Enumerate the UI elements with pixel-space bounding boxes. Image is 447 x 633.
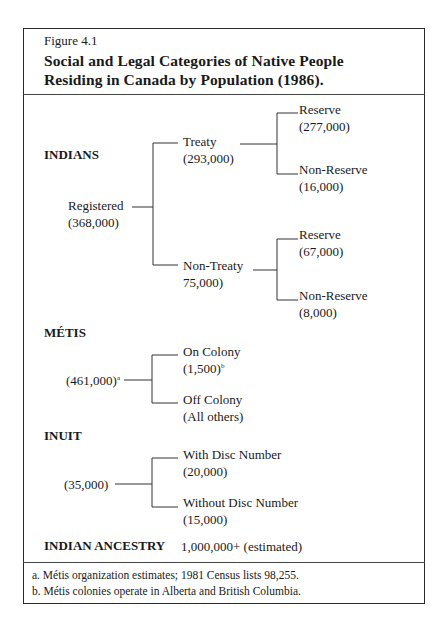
footnote-ref-a: a <box>117 374 120 382</box>
node-non-treaty-label: Non-Treaty <box>183 257 243 274</box>
node-on-colony-value: (1,500) <box>183 361 221 376</box>
node-on-colony-label: On Colony <box>183 343 240 360</box>
node-without-disc-value: (15,000) <box>183 511 298 528</box>
footnote-a: a. Métis organization estimates; 1981 Ce… <box>32 568 299 583</box>
node-treaty-non-reserve: Non-Reserve (16,000) <box>299 161 368 195</box>
node-registered: Registered (368,000) <box>68 197 124 231</box>
node-with-disc-label: With Disc Number <box>183 446 281 463</box>
node-non-treaty-non-reserve: Non-Reserve (8,000) <box>299 287 368 321</box>
node-off-colony-label: Off Colony <box>183 391 243 408</box>
node-metis-total: (461,000)a <box>66 372 120 389</box>
node-off-colony: Off Colony (All others) <box>183 391 243 425</box>
node-treaty-value: (293,000) <box>183 150 234 167</box>
node-registered-value: (368,000) <box>68 214 124 231</box>
node-non-treaty-reserve-label: Reserve <box>299 226 343 243</box>
node-metis-total-value: (461,000) <box>66 373 117 388</box>
node-registered-label: Registered <box>68 197 124 214</box>
indian-ancestry-heading: INDIAN ANCESTRY <box>44 538 165 554</box>
node-inuit-total: (35,000) <box>64 476 108 493</box>
node-treaty-non-reserve-value: (16,000) <box>299 178 368 195</box>
node-non-treaty-value: 75,000) <box>183 274 243 291</box>
node-treaty-reserve-value: (277,000) <box>299 118 350 135</box>
node-with-disc-value: (20,000) <box>183 463 281 480</box>
indian-ancestry-value: 1,000,000+ (estimated) <box>181 538 302 555</box>
node-without-disc-label: Without Disc Number <box>183 494 298 511</box>
metis-heading: MÉTIS <box>44 325 86 341</box>
node-treaty-reserve: Reserve (277,000) <box>299 101 350 135</box>
node-non-treaty-non-reserve-value: (8,000) <box>299 304 368 321</box>
footnote-b: b. Métis colonies operate in Alberta and… <box>32 584 301 599</box>
node-treaty-label: Treaty <box>183 133 234 150</box>
inuit-heading: INUIT <box>44 428 82 444</box>
node-on-colony: On Colony (1,500)b <box>183 343 240 377</box>
node-treaty-non-reserve-label: Non-Reserve <box>299 161 368 178</box>
node-off-colony-value: (All others) <box>183 408 243 425</box>
node-non-treaty: Non-Treaty 75,000) <box>183 257 243 291</box>
footnote-ref-b: b <box>221 362 225 370</box>
node-without-disc: Without Disc Number (15,000) <box>183 494 298 528</box>
node-non-treaty-non-reserve-label: Non-Reserve <box>299 287 368 304</box>
node-treaty: Treaty (293,000) <box>183 133 234 167</box>
node-treaty-reserve-label: Reserve <box>299 101 350 118</box>
node-non-treaty-reserve-value: (67,000) <box>299 243 343 260</box>
node-on-colony-value-row: (1,500)b <box>183 360 240 377</box>
indians-heading: INDIANS <box>44 147 99 163</box>
node-non-treaty-reserve: Reserve (67,000) <box>299 226 343 260</box>
node-with-disc: With Disc Number (20,000) <box>183 446 281 480</box>
